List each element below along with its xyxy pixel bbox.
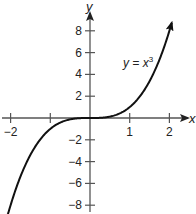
axes — [2, 13, 188, 212]
y-tick-label: 6 — [75, 46, 82, 60]
y-tick-label: 8 — [75, 24, 82, 38]
cubic-function-plot: −212 8642−2−4−6−8 x y y = x3 — [0, 0, 196, 214]
y-tick-label: 2 — [75, 89, 82, 103]
x-tick-label: 1 — [126, 125, 133, 139]
y-axis-label: y — [85, 0, 94, 14]
function-label: y = x3 — [122, 55, 154, 70]
function-label-exponent: 3 — [149, 55, 154, 64]
y-tick-label: 4 — [75, 67, 82, 81]
y-tick-label: −6 — [68, 176, 82, 190]
x-tick-label: −2 — [4, 125, 18, 139]
y-tick-label: −8 — [68, 198, 82, 212]
function-label-base: y = x — [122, 56, 150, 70]
x-axis-label: x — [188, 111, 196, 126]
x-tick-label: 2 — [166, 125, 173, 139]
x-axis-ticks: −212 — [4, 113, 173, 139]
y-tick-label: −4 — [68, 155, 82, 169]
y-tick-label: −2 — [68, 133, 82, 147]
